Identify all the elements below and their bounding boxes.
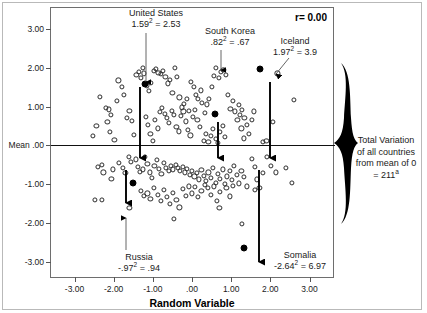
x-axis-tick (310, 277, 311, 282)
scatter-point (105, 120, 110, 125)
x-axis-tick-label: 2.00 (262, 284, 279, 294)
scatter-point (133, 157, 138, 162)
scatter-point (260, 140, 265, 145)
scatter-point (175, 74, 180, 79)
scatter-point (275, 71, 280, 76)
scatter-point (251, 109, 256, 114)
scatter-point (94, 123, 99, 128)
scatter-point (99, 162, 104, 167)
scatter-point (211, 184, 216, 189)
scatter-point (241, 175, 246, 180)
scatter-point (127, 108, 132, 113)
x-axis-tick (153, 277, 154, 282)
scatter-point (186, 184, 191, 189)
scatter-point (260, 171, 265, 176)
scatter-point (265, 154, 270, 159)
x-axis-tick (75, 277, 76, 282)
scatter-point (185, 127, 190, 132)
scatter-point (283, 165, 288, 170)
scatter-point (91, 134, 96, 139)
callout-somalia: Somalia -2.642 = 6.97 (248, 250, 352, 272)
scatter-point (221, 67, 226, 72)
scatter-point (145, 191, 150, 196)
scatter-point (160, 106, 165, 111)
callout-label-russia: Russia (87, 252, 191, 263)
total-variation-note: Total Variation of all countries from me… (346, 135, 426, 181)
scatter-point (159, 171, 164, 176)
callout-formula-russia: -.972 = .94 (87, 263, 191, 274)
scatter-point (183, 193, 188, 198)
scatter-point (195, 117, 200, 122)
scatter-point (114, 99, 119, 104)
scatter-point (180, 186, 185, 191)
scatter-point (154, 158, 159, 163)
scatter-point (234, 172, 239, 177)
scatter-point (177, 205, 182, 210)
scatter-point (291, 97, 296, 102)
scatter-point (229, 178, 234, 183)
scatter-point (150, 138, 155, 143)
scatter-point (240, 107, 245, 112)
scatter-point (121, 92, 126, 97)
scatter-point (186, 108, 191, 113)
scatter-point (171, 190, 176, 195)
scatter-point (202, 110, 207, 115)
scatter-point (247, 131, 252, 136)
scatter-point (223, 72, 228, 77)
highlighted-point-russia (130, 179, 137, 186)
scatter-point (214, 199, 219, 204)
scatter-point (129, 118, 134, 123)
scatter-point (216, 75, 221, 80)
scatter-point (227, 168, 232, 173)
scatter-point (208, 192, 213, 197)
scatter-point (160, 68, 165, 73)
scatter-point (184, 96, 189, 101)
scatter-point (97, 94, 102, 99)
x-axis-tick (192, 277, 193, 282)
y-axis-tick (46, 107, 51, 108)
note-line-4: = 211a (346, 170, 426, 182)
scatter-point (235, 117, 240, 122)
callout-iceland: Iceland 1.972 = 3.9 (245, 36, 345, 58)
callout-russia: Russia -.972 = .94 (87, 252, 191, 274)
scatter-point (106, 107, 111, 112)
x-axis-tick-label: -3.00 (65, 284, 84, 294)
x-axis-tick (114, 277, 115, 282)
scatter-point (240, 221, 245, 226)
scatter-point (92, 197, 97, 202)
y-axis-tick (46, 262, 51, 263)
figure-root: 3.002.001.00Mean .00-1.00-2.00-3.00-3.00… (0, 0, 427, 313)
note-line-2: of all countries (346, 147, 426, 159)
callout-label-united-states: United States (96, 8, 216, 19)
scatter-point (153, 117, 158, 122)
scatter-point (269, 163, 274, 168)
scatter-point (116, 78, 121, 83)
scatter-point (131, 132, 136, 137)
y-axis-tick (46, 184, 51, 185)
scatter-point (164, 195, 169, 200)
scatter-point (171, 113, 176, 118)
scatter-point (182, 101, 187, 106)
scatter-point (249, 156, 254, 161)
scatter-point (148, 131, 153, 136)
scatter-point (178, 113, 183, 118)
scatter-point (149, 175, 154, 180)
scatter-point (198, 88, 203, 93)
scatter-point (205, 185, 210, 190)
y-axis-tick (46, 29, 51, 30)
y-axis-tick (46, 145, 51, 146)
scatter-point (155, 126, 160, 131)
scatter-point (183, 119, 188, 124)
scatter-point (204, 102, 209, 107)
scatter-point (140, 167, 145, 172)
callout-formula-somalia: -2.642 = 6.97 (248, 261, 352, 272)
y-axis-tick (46, 223, 51, 224)
scatter-point (108, 113, 113, 118)
scatter-point (123, 171, 128, 176)
scatter-point (119, 84, 124, 89)
scatter-point (167, 202, 172, 207)
highlighted-point-united-states (142, 80, 149, 87)
scatter-point (99, 197, 104, 202)
scatter-point (110, 167, 115, 172)
scatter-point (193, 185, 198, 190)
